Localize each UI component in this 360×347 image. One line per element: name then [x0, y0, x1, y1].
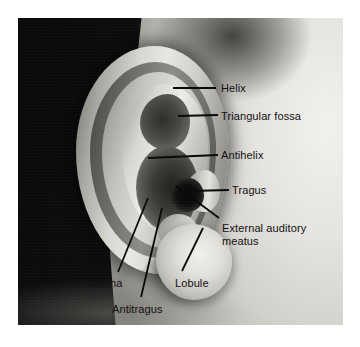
label-lobule: Lobule: [175, 277, 209, 290]
label-helix: Helix: [221, 82, 246, 95]
label-tragus: Tragus: [232, 184, 266, 197]
label-concha: Concha: [84, 277, 123, 290]
label-external-auditory-meatus: External auditory meatus: [222, 222, 306, 247]
label-antitragus: Antitragus: [112, 303, 163, 316]
label-antihelix: Antihelix: [221, 149, 263, 162]
label-triangular-fossa: Triangular fossa: [221, 110, 301, 123]
figure-canvas: Helix Triangular fossa Antihelix Tragus …: [0, 0, 360, 347]
